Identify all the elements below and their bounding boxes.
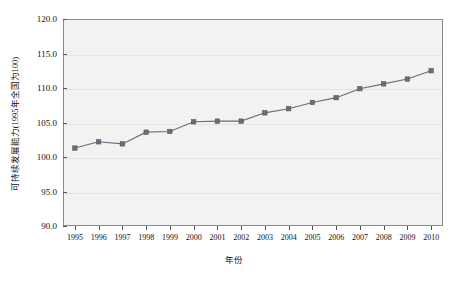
- x-tick-mark: [407, 226, 408, 230]
- data-point-marker: [168, 129, 172, 133]
- x-tick-mark: [146, 226, 147, 230]
- x-tick-mark: [360, 226, 361, 230]
- x-tick-mark: [194, 226, 195, 230]
- data-point-marker: [215, 119, 219, 123]
- chart-figure: 可持续发展能力(1995年全国为100) 90.095.0100.0105.01…: [0, 0, 467, 281]
- x-tick-mark: [289, 226, 290, 230]
- x-tick-mark: [241, 226, 242, 230]
- y-tick-mark: [63, 226, 67, 227]
- x-tick-mark: [99, 226, 100, 230]
- x-tick-mark: [170, 226, 171, 230]
- data-point-marker: [405, 77, 409, 81]
- data-point-marker: [96, 140, 100, 144]
- data-point-marker: [334, 95, 338, 99]
- y-tick-label: 110.0: [19, 84, 57, 93]
- x-tick-mark: [217, 226, 218, 230]
- data-point-marker: [191, 120, 195, 124]
- y-tick-label: 115.0: [19, 50, 57, 59]
- x-tick-mark: [336, 226, 337, 230]
- data-point-marker: [144, 130, 148, 134]
- data-series-line: [63, 19, 443, 226]
- y-tick-label: 95.0: [19, 188, 57, 197]
- data-point-marker: [429, 69, 433, 73]
- x-tick-mark: [265, 226, 266, 230]
- x-axis-title: 年份: [0, 253, 467, 265]
- data-point-marker: [381, 82, 385, 86]
- data-point-marker: [358, 86, 362, 90]
- data-point-marker: [73, 146, 77, 150]
- y-tick-label: 120.0: [19, 15, 57, 24]
- x-tick-label: 2010: [411, 234, 451, 242]
- x-tick-mark: [312, 226, 313, 230]
- x-tick-mark: [122, 226, 123, 230]
- x-tick-mark: [384, 226, 385, 230]
- series-svg: [63, 19, 443, 226]
- data-point-marker: [239, 119, 243, 123]
- data-point-marker: [263, 111, 267, 115]
- x-tick-mark: [431, 226, 432, 230]
- series-path: [75, 71, 431, 148]
- data-point-marker: [120, 142, 124, 146]
- y-tick-label: 105.0: [19, 119, 57, 128]
- data-point-marker: [286, 107, 290, 111]
- y-tick-label: 100.0: [19, 153, 57, 162]
- x-tick-mark: [75, 226, 76, 230]
- y-tick-label: 90.0: [19, 222, 57, 231]
- data-point-marker: [310, 100, 314, 104]
